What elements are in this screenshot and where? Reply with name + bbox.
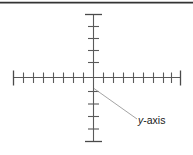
coordinate-axes-figure: y-axis [0, 0, 193, 155]
y-axis-label-leader-line [94, 89, 137, 120]
y-axis-label: y-axis [137, 114, 165, 126]
figure-container: y-axis [0, 0, 193, 155]
x-axis-group [14, 71, 181, 86]
y-axis-label-suffix: -axis [143, 114, 165, 126]
